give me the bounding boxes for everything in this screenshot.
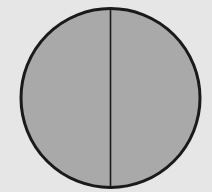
diagram-canvas — [0, 0, 212, 192]
